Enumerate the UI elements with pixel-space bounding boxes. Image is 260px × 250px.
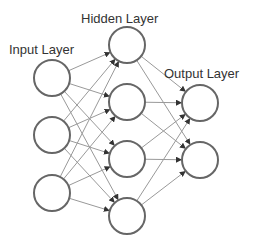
nodes: [34, 27, 218, 234]
hidden-node-1: [109, 27, 145, 63]
connection-edge: [68, 53, 109, 71]
connection-edge: [68, 167, 109, 186]
connection-edge: [141, 172, 185, 205]
hidden-node-3: [109, 141, 145, 177]
neural-network-diagram: Input Layer Hidden Layer Output Layer: [0, 0, 260, 250]
hidden-layer-label: Hidden Layer: [81, 11, 159, 26]
input-node-3: [34, 175, 70, 211]
input-layer-label: Input Layer: [9, 42, 75, 57]
output-node-1: [182, 85, 218, 121]
output-node-2: [182, 142, 218, 178]
connection-edge: [69, 198, 109, 210]
connection-edge: [64, 60, 115, 122]
hidden-node-2: [109, 84, 145, 120]
input-node-1: [34, 60, 70, 96]
connection-edge: [64, 148, 114, 202]
hidden-node-4: [109, 198, 145, 234]
input-node-2: [34, 117, 70, 153]
output-layer-label: Output Layer: [164, 66, 240, 81]
